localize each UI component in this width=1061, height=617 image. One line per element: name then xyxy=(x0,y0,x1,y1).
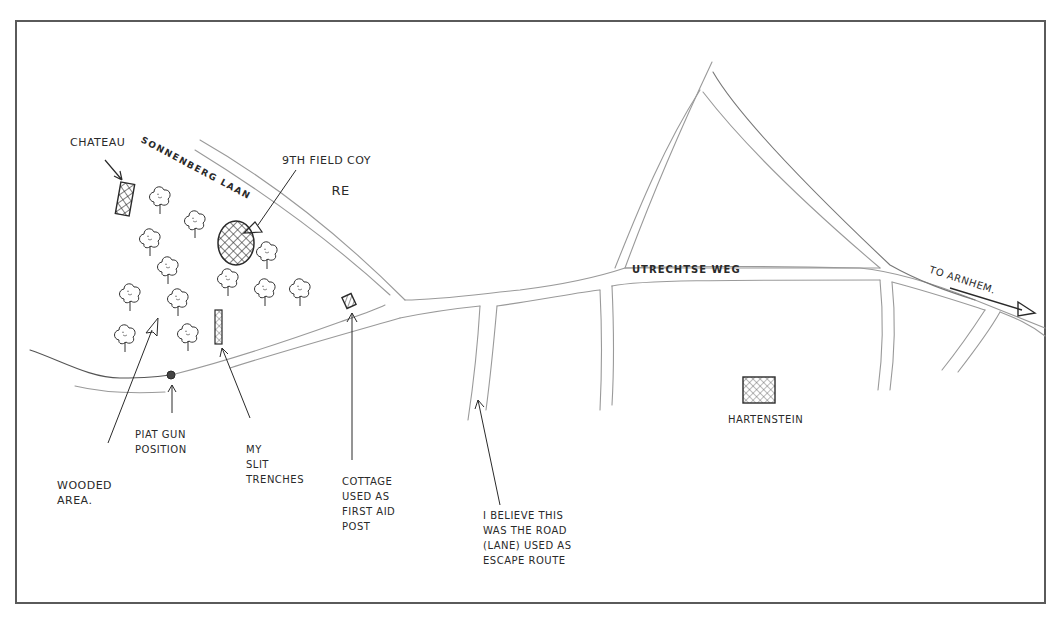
cottage-arrow xyxy=(347,313,357,460)
hartenstein-building xyxy=(743,377,775,403)
chateau-building xyxy=(115,182,134,216)
label-escape-route: I BELIEVE THIS WAS THE ROAD (LANE) USED … xyxy=(483,508,571,568)
piat-gun-position xyxy=(167,371,175,379)
label-field-coy-line2: RE xyxy=(331,183,349,198)
piat-gun-arrow xyxy=(168,385,176,413)
label-field-coy: 9TH FIELD COY RE xyxy=(282,138,371,199)
label-field-coy-line1: 9TH FIELD COY xyxy=(282,154,371,167)
slit-trench-arrow xyxy=(220,348,250,418)
chateau-arrow xyxy=(105,160,122,180)
road-network xyxy=(30,62,1045,420)
label-piat-gun-position: PIAT GUN POSITION xyxy=(135,427,187,457)
label-utrechtse-weg: UTRECHTSE WEG xyxy=(632,262,741,277)
wooded-area-trees xyxy=(115,187,311,352)
label-hartenstein: HARTENSTEIN xyxy=(728,412,803,427)
escape-route-arrow xyxy=(475,400,500,505)
label-cottage-first-aid: COTTAGE USED AS FIRST AID POST xyxy=(342,474,395,534)
cottage-building xyxy=(342,293,356,308)
slit-trench xyxy=(215,310,222,344)
label-wooded-area: WOODED AREA. xyxy=(57,478,112,508)
label-chateau: CHATEAU xyxy=(70,135,125,150)
label-slit-trenches: MY SLIT TRENCHES xyxy=(246,442,304,487)
